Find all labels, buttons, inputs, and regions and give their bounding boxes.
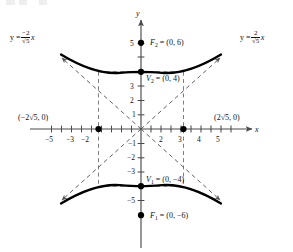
point-right-intercept [180, 126, 186, 132]
asymptote-left-variable: x [31, 33, 35, 42]
y-tick-neg2: −2 [127, 153, 135, 162]
point-focus-upper [138, 40, 144, 46]
x-tick-2: 2 [159, 135, 163, 144]
asymptote-right-label: y =2√5x [240, 30, 264, 45]
y-tick-neg3: −3 [127, 167, 135, 176]
focus-lower-equation: = (0, −6) [158, 211, 188, 220]
asymptote-left-lhs: y = [10, 33, 21, 42]
x-tick-4: 4 [197, 135, 201, 144]
focus-lower-label: F1 = (0, −6) [150, 211, 188, 221]
hyperbola-figure: y x y =−2√5x y =2√5x F2 = (0, 6) V2 = (0… [0, 0, 293, 252]
y-tick-5: 5 [130, 39, 134, 48]
asymptote-right-denominator: √5 [251, 37, 260, 45]
x-tick-neg3: −3 [66, 135, 74, 144]
asymptote-left-fraction: −2√5 [21, 30, 30, 45]
x-tick-5: 5 [216, 135, 220, 144]
asymptote-right-numerator: 2 [251, 30, 260, 37]
left-intercept-label: (−2√5, 0) [18, 113, 48, 122]
asymptote-upper-right [141, 58, 220, 129]
vertex-lower-label: V1 = (0, −4) [146, 175, 184, 185]
y-tick-neg5: −5 [127, 196, 135, 205]
focus-upper-label: F2 = (0, 6) [150, 38, 184, 48]
asymptote-right-variable: x [261, 33, 265, 42]
asymptote-left-denominator: √5 [21, 37, 30, 45]
vertex-upper-label: V2 = (0, 4) [146, 74, 180, 84]
x-tick-neg5: −5 [45, 135, 53, 144]
x-tick-3: 3 [178, 135, 182, 144]
y-tick-2: 2 [130, 96, 134, 105]
x-axis-label: x [255, 125, 259, 134]
point-left-intercept [95, 126, 101, 132]
vertex-lower-equation: = (0, −4) [154, 175, 184, 184]
y-tick-3: 3 [130, 82, 134, 91]
vertex-upper-equation: = (0, 4) [154, 74, 180, 83]
asymptote-right-lhs: y = [240, 33, 251, 42]
point-vertex-lower [138, 183, 144, 189]
asymptote-left-label: y =−2√5x [10, 30, 35, 45]
x-tick-neg2: −2 [81, 135, 89, 144]
asymptote-left-numerator: −2 [21, 30, 30, 37]
asymptote-upper-left [62, 58, 141, 129]
point-vertex-upper [138, 69, 144, 75]
asymptote-right-fraction: 2√5 [251, 30, 260, 45]
y-tick-1: 1 [132, 110, 136, 119]
y-axis-label: y [136, 9, 140, 18]
point-focus-lower [138, 212, 144, 218]
focus-upper-equation: = (0, 6) [158, 38, 184, 47]
y-tick-neg1: −1 [128, 139, 136, 148]
right-intercept-label: (2√5, 0) [214, 113, 240, 122]
